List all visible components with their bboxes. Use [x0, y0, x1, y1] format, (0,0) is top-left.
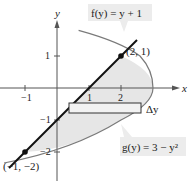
x-tick-label-1: 1: [87, 92, 92, 103]
g-label: g(y) = 3 − y²: [122, 141, 179, 154]
x-tick-label--1: −1: [21, 92, 32, 103]
x-axis-arrow-icon: [172, 86, 180, 91]
f-label: f(y) = y + 1: [91, 7, 142, 20]
f-label-pointer: [120, 21, 128, 32]
y-tick-label--2: −2: [40, 146, 51, 157]
point-2-1: [118, 53, 124, 59]
y-axis-label: y: [54, 7, 60, 19]
y-tick-label-1: 1: [45, 50, 50, 61]
x-tick-label-2: 2: [118, 92, 123, 103]
representative-rectangle: [69, 103, 141, 113]
y-tick-label--1: −1: [40, 114, 51, 125]
area-diagram: x y −1 1 2 1 −1 −2 f(y) = y + 1 g(y) = 3…: [0, 0, 189, 181]
point--1--2: [22, 149, 28, 155]
y-axis-arrow-icon: [55, 20, 60, 28]
g-label-pointer: [121, 124, 132, 137]
point-label--1--2: (−1, −2): [3, 160, 40, 173]
x-axis-label: x: [181, 82, 187, 94]
point-label-2-1: (2, 1): [126, 45, 150, 58]
delta-y-label: Δy: [146, 103, 159, 115]
